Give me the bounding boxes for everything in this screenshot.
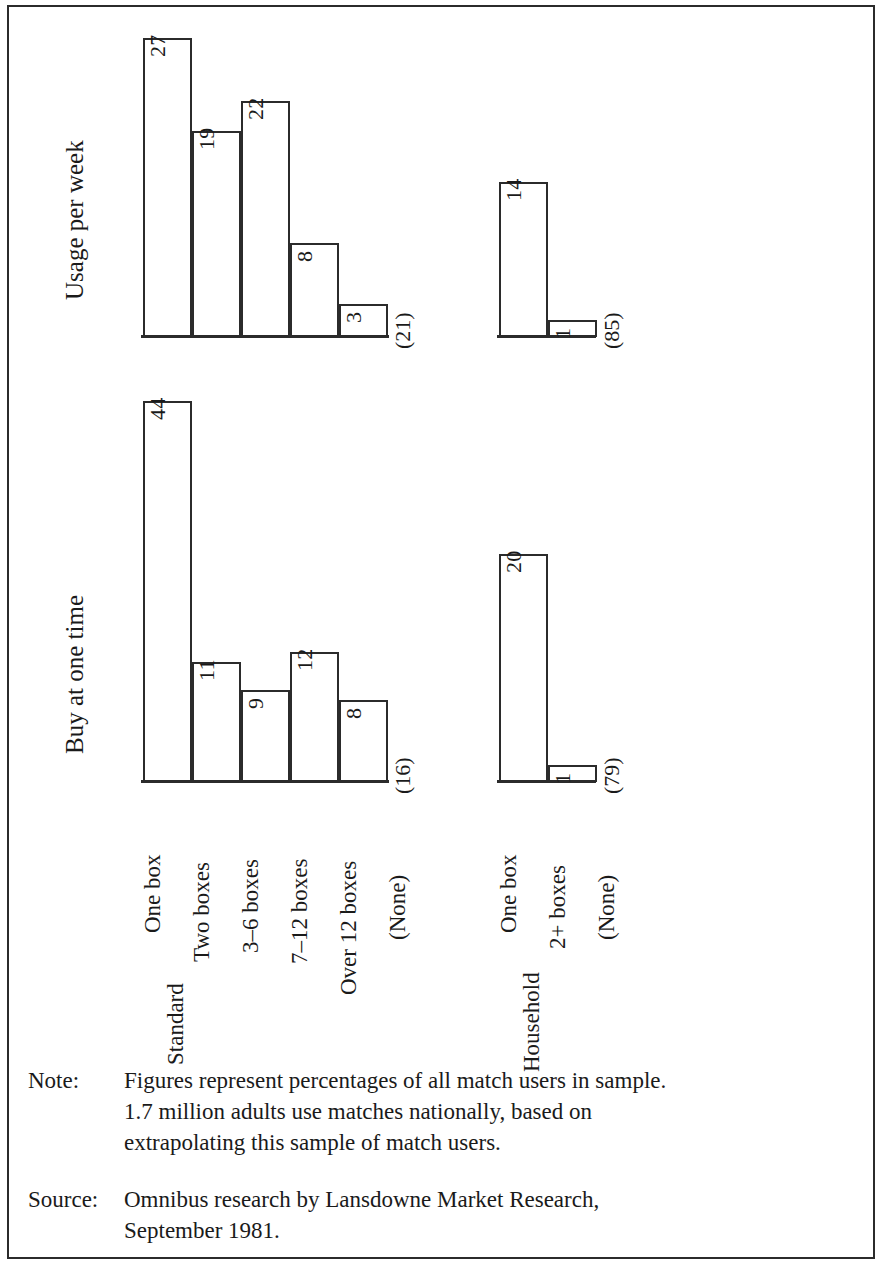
cat-label-household-2plus-boxes: 2+ boxes <box>546 865 569 949</box>
bar-label-buy-standard-none: (16) <box>392 757 414 794</box>
bar-label-usage-standard-7-12-boxes: 8 <box>294 251 316 262</box>
bar-label-buy-standard-7-12-boxes: 12 <box>294 649 316 671</box>
cat-label-household-none: (None) <box>595 875 618 940</box>
note-body: Figures represent percentages of all mat… <box>124 1065 666 1158</box>
cat-label-household-one-box: One box <box>497 854 520 933</box>
bar-label-buy-household-one-box: 20 <box>503 551 525 573</box>
bar-label-usage-standard-none: (21) <box>392 312 414 349</box>
note-tag: Note: <box>28 1065 124 1096</box>
note-line-1: Figures represent percentages of all mat… <box>124 1065 666 1096</box>
note-block: Note: Figures represent percentages of a… <box>28 1065 828 1158</box>
cat-label-standard-two-boxes: Two boxes <box>190 862 213 962</box>
bar-label-buy-standard-over-12-boxes: 8 <box>343 708 365 719</box>
bar-label-usage-standard-one-box: 27 <box>147 35 169 57</box>
note-line-2: 1.7 million adults use matches nationall… <box>124 1096 666 1127</box>
panel-title-usage: Usage per week <box>62 140 87 300</box>
source-line-2: September 1981. <box>124 1215 599 1246</box>
cat-label-standard-one-box: One box <box>141 854 164 933</box>
bar-buy-standard-one-box <box>143 401 192 782</box>
cat-label-standard-3-6-boxes: 3–6 boxes <box>239 859 262 953</box>
source-tag: Source: <box>28 1184 124 1215</box>
bar-label-usage-standard-over-12-boxes: 3 <box>343 312 365 323</box>
bar-usage-standard-two-boxes <box>192 131 241 337</box>
bar-label-buy-standard-one-box: 44 <box>147 398 169 420</box>
bar-label-usage-standard-3-6-boxes: 22 <box>245 98 267 120</box>
bar-label-buy-household-none: (79) <box>601 757 623 794</box>
bar-label-usage-standard-two-boxes: 19 <box>196 128 218 150</box>
group-label-standard: Standard <box>164 983 187 1065</box>
footnotes: Note: Figures represent percentages of a… <box>28 1065 828 1268</box>
source-body: Omnibus research by Lansdowne Market Res… <box>124 1184 599 1246</box>
bar-usage-household-one-box <box>499 182 548 337</box>
source-line-1: Omnibus research by Lansdowne Market Res… <box>124 1184 599 1215</box>
bar-label-usage-household-one-box: 14 <box>503 179 525 201</box>
group-label-household: Household <box>520 972 543 1072</box>
cat-label-standard-none: (None) <box>386 875 409 940</box>
cat-label-standard-7-12-boxes: 7–12 boxes <box>288 859 311 964</box>
bar-label-buy-standard-3-6-boxes: 9 <box>245 698 267 709</box>
note-line-3: extrapolating this sample of match users… <box>124 1127 666 1158</box>
bar-usage-standard-one-box <box>143 38 192 337</box>
bar-buy-standard-7-12-boxes <box>290 652 339 782</box>
cat-label-standard-over-12-boxes: Over 12 boxes <box>337 861 360 995</box>
panel-title-buy: Buy at one time <box>62 595 87 754</box>
bar-label-usage-household-none: (85) <box>601 312 623 349</box>
bar-label-buy-household-2plus-boxes: 1 <box>552 773 574 784</box>
bar-label-usage-household-2plus-boxes: 1 <box>552 328 574 339</box>
bar-label-buy-standard-two-boxes: 11 <box>196 659 218 681</box>
bar-buy-household-one-box <box>499 554 548 782</box>
source-block: Source: Omnibus research by Lansdowne Ma… <box>28 1184 828 1246</box>
bar-usage-standard-3-6-boxes <box>241 101 290 337</box>
